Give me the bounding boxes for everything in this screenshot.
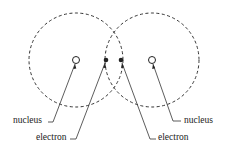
left-electron <box>104 58 109 63</box>
nucleus-right-leader <box>153 64 181 121</box>
right-electron <box>119 58 124 63</box>
nucleus-left-label: nucleus <box>13 116 42 126</box>
nucleus-right-label: nucleus <box>184 116 213 126</box>
electron-left-label: electron <box>36 133 67 143</box>
nucleus-right-arrowhead <box>152 64 155 69</box>
electron-left-leader <box>70 63 105 139</box>
left-nucleus <box>73 57 80 64</box>
electron-right-leader <box>122 63 156 139</box>
right-nucleus <box>149 57 156 64</box>
covalent-bond-diagram: nucleus electron electron nucleus <box>0 0 226 151</box>
nucleus-left-leader <box>48 64 75 122</box>
diagram-canvas <box>0 0 226 151</box>
electron-right-label: electron <box>158 133 189 143</box>
